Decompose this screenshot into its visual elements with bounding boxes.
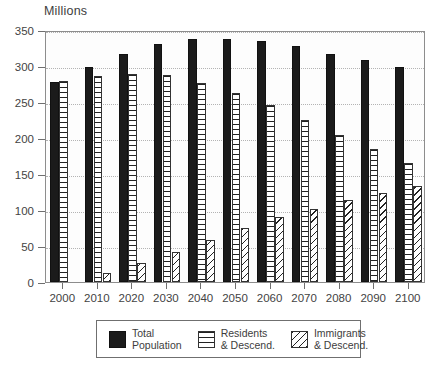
x-axis-tick (97, 283, 98, 289)
x-axis-label: 2100 (395, 292, 421, 304)
legend-swatch (198, 331, 215, 348)
bar-residents-descend (94, 76, 103, 282)
bar-residents-descend (128, 74, 137, 282)
population-projection-chart: Millions 050100150200250300350 200020102… (0, 0, 437, 372)
legend-swatch (291, 331, 308, 348)
x-axis-tick (131, 283, 132, 289)
legend-label-line1: Immigrants (314, 327, 366, 339)
y-axis-tick (38, 211, 45, 212)
y-axis-tick (38, 103, 45, 104)
x-axis-label: 2080 (326, 292, 352, 304)
bar-total-population (326, 54, 335, 282)
x-axis-label: 2000 (49, 292, 75, 304)
bar-residents-descend (197, 83, 206, 282)
y-axis-label: 150 (0, 169, 34, 181)
y-axis-label: 250 (0, 97, 34, 109)
bar-total-population (85, 67, 94, 282)
x-axis-label: 2070 (291, 292, 317, 304)
y-axis-tick (38, 67, 45, 68)
x-axis-tick (235, 283, 236, 289)
bar-immigrants-descend (310, 209, 319, 282)
bar-residents-descend (59, 81, 68, 282)
x-axis-tick (373, 283, 374, 289)
y-axis-tick (38, 247, 45, 248)
bar-residents-descend (266, 105, 275, 282)
legend-label: Residents& Descend. (221, 327, 275, 351)
x-axis-label: 2050 (222, 292, 248, 304)
legend-label: TotalPopulation (132, 327, 182, 351)
bar-immigrants-descend (344, 200, 353, 282)
y-axis-label: 200 (0, 133, 34, 145)
bar-immigrants-descend (103, 273, 112, 282)
bar-total-population (395, 67, 404, 282)
x-axis-tick (408, 283, 409, 289)
plot-inner (46, 32, 424, 282)
bar-immigrants-descend (413, 186, 422, 282)
y-axis-title: Millions (44, 4, 87, 18)
x-axis-label: 2060 (257, 292, 283, 304)
bar-residents-descend (301, 120, 310, 282)
bar-total-population (361, 60, 370, 282)
x-axis-tick (339, 283, 340, 289)
y-axis-label: 300 (0, 61, 34, 73)
x-axis-label: 2090 (360, 292, 386, 304)
legend-item: TotalPopulation (109, 327, 182, 351)
legend-item: Residents& Descend. (198, 327, 275, 351)
x-axis-tick (166, 283, 167, 289)
x-axis-label: 2030 (153, 292, 179, 304)
legend-swatch (109, 331, 126, 348)
bar-total-population (223, 39, 232, 282)
y-axis-tick (38, 31, 45, 32)
bar-immigrants-descend (172, 252, 181, 282)
plot-area (45, 31, 425, 283)
x-axis-tick (304, 283, 305, 289)
legend-label-line1: Residents (221, 327, 268, 339)
y-axis-label: 100 (0, 205, 34, 217)
bar-immigrants-descend (137, 263, 146, 282)
bar-total-population (257, 41, 266, 282)
legend-item: Immigrants& Descend. (291, 327, 368, 351)
y-axis-tick (38, 139, 45, 140)
bar-total-population (154, 44, 163, 282)
bar-residents-descend (404, 163, 413, 282)
bar-total-population (292, 46, 301, 282)
legend-label-line2: Population (132, 339, 182, 351)
bar-immigrants-descend (275, 217, 284, 282)
legend-label-line1: Total (132, 327, 154, 339)
bar-immigrants-descend (379, 193, 388, 282)
y-axis-tick (38, 283, 45, 284)
x-axis-tick (62, 283, 63, 289)
legend-items: TotalPopulationResidents& Descend.Immigr… (97, 321, 360, 357)
y-axis-label: 50 (0, 241, 34, 253)
bar-residents-descend (335, 135, 344, 282)
bar-residents-descend (163, 75, 172, 282)
legend-label-line2: & Descend. (221, 339, 275, 351)
x-axis-tick (270, 283, 271, 289)
bar-residents-descend (232, 93, 241, 282)
legend-label-line2: & Descend. (314, 339, 368, 351)
y-axis-label: 0 (0, 277, 34, 289)
x-axis-tick (200, 283, 201, 289)
bar-immigrants-descend (206, 240, 215, 282)
bar-immigrants-descend (241, 228, 250, 282)
bar-total-population (188, 39, 197, 282)
y-axis-tick (38, 175, 45, 176)
legend-label: Immigrants& Descend. (314, 327, 368, 351)
bar-total-population (119, 54, 128, 282)
gridline (46, 32, 424, 33)
y-axis-label: 350 (0, 25, 34, 37)
bar-total-population (50, 82, 59, 282)
chart-legend: TotalPopulationResidents& Descend.Immigr… (96, 320, 361, 358)
x-axis-label: 2010 (84, 292, 110, 304)
x-axis-label: 2020 (119, 292, 145, 304)
bar-residents-descend (370, 149, 379, 282)
x-axis-label: 2040 (188, 292, 214, 304)
